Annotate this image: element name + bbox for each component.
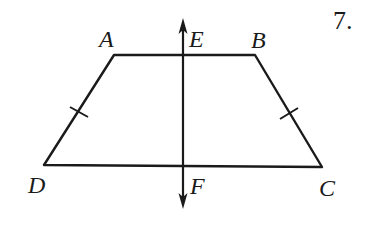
label-f: F	[189, 173, 205, 199]
diagram-canvas: A E B D F C 7.	[0, 0, 380, 227]
label-a: A	[97, 26, 114, 52]
label-c: C	[319, 175, 336, 201]
label-d: D	[27, 172, 45, 198]
label-b: B	[251, 27, 266, 53]
label-e: E	[188, 26, 204, 52]
problem-number: 7.	[333, 6, 353, 35]
trapezoid-diagram: A E B D F C 7.	[0, 0, 380, 227]
